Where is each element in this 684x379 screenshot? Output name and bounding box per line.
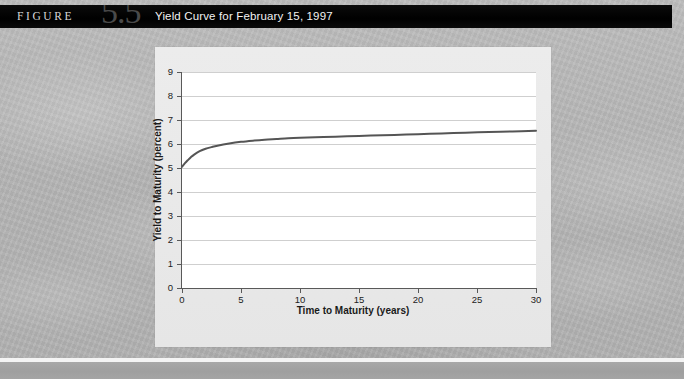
yield-curve-svg [182, 72, 536, 288]
y-axis-tick-label: 2 [168, 235, 173, 245]
x-axis-tick [477, 288, 478, 293]
footer-rule [0, 362, 684, 379]
y-axis-tick-label: 8 [168, 91, 173, 101]
x-axis-tick-label: 10 [295, 295, 306, 305]
x-axis-tick-label: 15 [354, 295, 365, 305]
x-axis-tick-label: 20 [413, 295, 424, 305]
y-axis-tick-label: 6 [168, 139, 173, 149]
figure-header-bar: FIGURE 5.5 Yield Curve for February 15, … [0, 5, 672, 28]
y-axis-tick-label: 1 [168, 259, 173, 269]
y-axis-tick-label: 5 [168, 163, 173, 173]
x-axis-tick [300, 288, 301, 293]
x-axis-tick-label: 0 [179, 295, 184, 305]
y-axis-tick-label: 3 [168, 211, 173, 221]
x-axis-title: Time to Maturity (years) [155, 305, 551, 316]
x-axis-tick [536, 288, 537, 293]
y-axis-tick-label: 9 [168, 67, 173, 77]
x-axis-tick-label: 30 [531, 295, 542, 305]
figure-word-label: FIGURE [17, 10, 74, 22]
y-axis-tick-label: 0 [168, 283, 173, 293]
x-axis-tick [241, 288, 242, 293]
x-axis-tick-label: 25 [472, 295, 483, 305]
x-axis-tick [182, 288, 183, 293]
figure-panel: Yield to Maturity (percent) Time to Matu… [155, 47, 551, 347]
y-axis-tick-label: 7 [168, 115, 173, 125]
plot-area: 0123456789 051015202530 [181, 72, 536, 289]
y-axis-tick-label: 4 [168, 187, 173, 197]
x-axis-tick [359, 288, 360, 293]
figure-number-label: 5.5 [101, 5, 141, 28]
figure-title: Yield Curve for February 15, 1997 [155, 10, 333, 22]
yield-curve-line [182, 131, 536, 167]
x-axis-tick [418, 288, 419, 293]
x-axis-tick-label: 5 [238, 295, 243, 305]
y-axis-title: Yield to Maturity (percent) [152, 119, 163, 242]
